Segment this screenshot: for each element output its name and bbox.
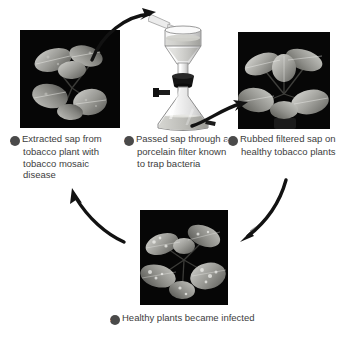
step-3-badge: 3	[228, 136, 238, 146]
arrow-step3-to-step4	[232, 176, 294, 248]
porcelain-filter-apparatus-photo	[148, 4, 218, 132]
diseased-tobacco-plant-photo	[20, 30, 120, 128]
step-4-caption: 4Healthy plants became infected	[110, 312, 273, 325]
figure-canvas: 1Extracted sap from tobacco plant with t…	[0, 0, 340, 345]
step-4-text: Healthy plants became infected	[122, 312, 255, 323]
step-2-text: Passed sap through a porcelain filter kn…	[136, 133, 228, 169]
step-2-badge: 2	[124, 136, 134, 146]
healthy-tobacco-plant-photo	[238, 32, 330, 129]
arrow-step4-to-step1	[58, 182, 128, 246]
step-3-text: Rubbed filtered sap on healthy tobacco p…	[240, 133, 336, 157]
step-1-text: Extracted sap from tobacco plant with to…	[22, 133, 102, 180]
step-1-caption: 1Extracted sap from tobacco plant with t…	[10, 133, 123, 181]
infected-tobacco-plant-photo	[140, 210, 228, 305]
step-4-badge: 4	[110, 315, 120, 325]
step-3-caption: 3Rubbed filtered sap on healthy tobacco …	[228, 133, 340, 158]
step-1-badge: 1	[10, 136, 20, 146]
step-2-caption: 2Passed sap through a porcelain filter k…	[124, 133, 229, 169]
